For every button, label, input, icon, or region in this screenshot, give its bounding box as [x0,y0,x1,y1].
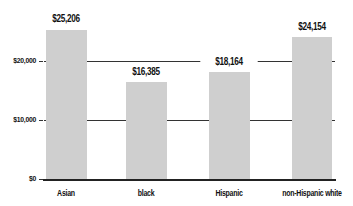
bar-chart: $20,000 $10,000 $0 $25,206 $16,385 $18,1… [0,0,353,206]
value-label-hispanic: $18,164 [200,56,257,67]
tick-10000 [39,120,43,121]
tick-20000 [39,61,43,62]
x-label-black: black [105,188,187,198]
x-label-hispanic: Hispanic [188,188,270,198]
bar-hispanic [209,72,250,179]
value-label-black: $16,385 [117,66,174,77]
x-label-non-hispanic-white: non-Hispanic white [271,188,353,198]
bar-black [126,82,167,179]
bar-non-hispanic-white [292,37,332,179]
value-label-non-hispanic-white: $24,154 [283,21,340,32]
bar-asian [46,30,87,179]
x-label-asian: Asian [25,188,107,198]
ytick-label-0: $0 [2,174,36,183]
value-label-asian: $25,206 [37,13,94,24]
ytick-label-10000: $10,000 [2,115,36,124]
ytick-label-20000: $20,000 [2,56,36,65]
x-axis-baseline [43,179,336,181]
